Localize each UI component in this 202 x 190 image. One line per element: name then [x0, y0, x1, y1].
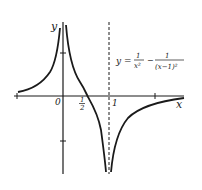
- tick-label-half-numerator: 1: [80, 96, 84, 104]
- formula-lhs: y =: [115, 56, 132, 66]
- formula-term1-numerator: 1: [136, 52, 140, 60]
- tick-label-one: 1: [112, 98, 118, 108]
- formula-minus: −: [147, 56, 154, 65]
- curve-branch-middle: [66, 25, 106, 172]
- curve-branch-left: [18, 28, 60, 92]
- curve-branch-right: [111, 98, 184, 172]
- formula-term2-denominator: (x−1)²: [155, 63, 178, 71]
- y-axis-label: y: [50, 20, 58, 33]
- function-graph: y x 0 1 2 1 y = 1 x² − 1 (x−1)²: [0, 0, 202, 190]
- tick-label-half-denominator: 2: [79, 104, 85, 112]
- x-axis-label: x: [176, 98, 183, 111]
- origin-label: 0: [55, 97, 61, 107]
- formula-term2-numerator: 1: [165, 52, 169, 60]
- formula-term1-denominator: x²: [134, 62, 141, 70]
